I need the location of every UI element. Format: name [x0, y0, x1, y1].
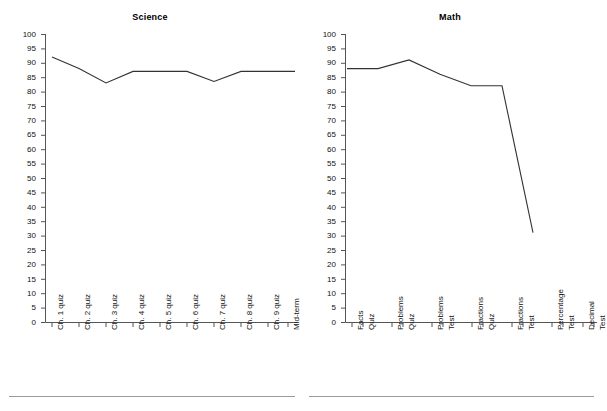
science-y-label: 85: [14, 74, 36, 82]
math-y-label: 5: [314, 304, 336, 312]
science-y-label: 20: [14, 261, 36, 269]
math-y-label: 95: [314, 45, 336, 53]
math-y-label: 10: [314, 290, 336, 298]
science-y-label: 95: [14, 45, 36, 53]
math-y-label: 20: [314, 261, 336, 269]
math-x-ticks: [352, 323, 594, 328]
footer-divider-right: [309, 396, 594, 397]
science-x-ticks: [52, 323, 288, 328]
math-y-label: 75: [314, 103, 336, 111]
science-y-ticks: [41, 35, 46, 323]
math-y-label: 30: [314, 232, 336, 240]
math-y-label: 40: [314, 204, 336, 212]
math-y-label: 80: [314, 88, 336, 96]
science-y-label: 30: [14, 232, 36, 240]
math-y-label: 25: [314, 247, 336, 255]
science-y-label: 90: [14, 59, 36, 67]
math-plot-svg: [300, 0, 600, 411]
science-y-label: 40: [14, 204, 36, 212]
math-y-label: 0: [314, 319, 336, 327]
science-y-label: 15: [14, 276, 36, 284]
science-y-label: 75: [14, 103, 36, 111]
science-chart-panel: Science: [0, 0, 300, 411]
science-y-label: 5: [14, 304, 36, 312]
science-y-label: 70: [14, 117, 36, 125]
math-y-label: 15: [314, 276, 336, 284]
math-chart-panel: Math: [300, 0, 600, 411]
math-y-label: 85: [314, 74, 336, 82]
science-y-label: 55: [14, 160, 36, 168]
math-y-label: 70: [314, 117, 336, 125]
math-y-label: 60: [314, 146, 336, 154]
science-y-label: 45: [14, 189, 36, 197]
science-plot-svg: [0, 0, 300, 411]
science-y-label: 35: [14, 218, 36, 226]
math-y-ticks: [341, 35, 346, 323]
science-y-label: 65: [14, 131, 36, 139]
science-y-label: 60: [14, 146, 36, 154]
math-y-label: 65: [314, 131, 336, 139]
math-y-label: 55: [314, 160, 336, 168]
footer-divider-left: [9, 396, 295, 397]
science-y-label: 50: [14, 175, 36, 183]
math-y-label: 50: [314, 175, 336, 183]
math-y-label: 90: [314, 59, 336, 67]
science-y-label: 0: [14, 319, 36, 327]
math-y-label: 35: [314, 218, 336, 226]
math-y-label: 45: [314, 189, 336, 197]
science-y-label: 25: [14, 247, 36, 255]
science-y-label: 80: [14, 88, 36, 96]
science-data-line: [52, 57, 295, 83]
science-y-label: 100: [14, 31, 36, 39]
math-y-label: 100: [314, 31, 336, 39]
science-y-label: 10: [14, 290, 36, 298]
math-data-line: [347, 60, 533, 233]
